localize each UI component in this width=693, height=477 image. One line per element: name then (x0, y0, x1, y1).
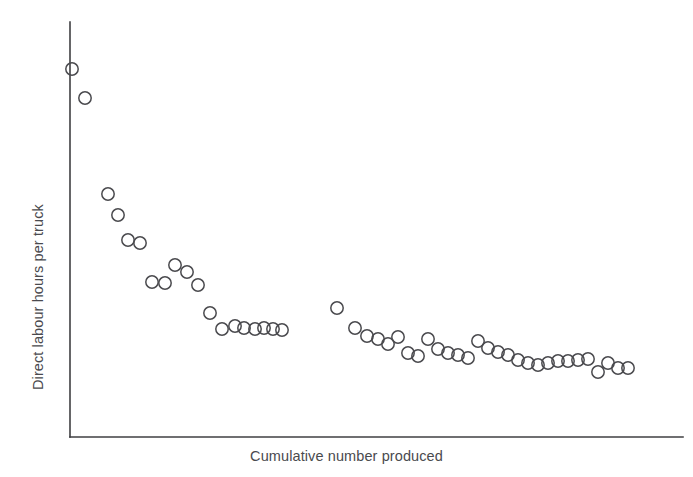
data-point (102, 188, 114, 200)
data-point (146, 276, 158, 288)
data-point-markers (66, 63, 634, 378)
chart-figure: Cumulative number produced Direct labour… (0, 0, 693, 477)
data-point (112, 209, 124, 221)
data-point (592, 366, 604, 378)
data-point (204, 307, 216, 319)
data-point (331, 302, 343, 314)
data-point (159, 277, 171, 289)
data-point (276, 324, 288, 336)
data-point (66, 63, 78, 75)
data-point (122, 234, 134, 246)
data-point (216, 323, 228, 335)
data-point (192, 279, 204, 291)
y-axis-label: Direct labour hours per truck (30, 0, 46, 390)
data-point (169, 259, 181, 271)
data-point (181, 266, 193, 278)
x-axis-label: Cumulative number produced (0, 448, 693, 464)
data-point (422, 333, 434, 345)
scatter-plot-canvas (0, 0, 693, 477)
data-point (349, 322, 361, 334)
data-point (134, 237, 146, 249)
data-point (392, 331, 404, 343)
data-point (79, 92, 91, 104)
axis-lines (70, 22, 683, 437)
data-point (229, 320, 241, 332)
